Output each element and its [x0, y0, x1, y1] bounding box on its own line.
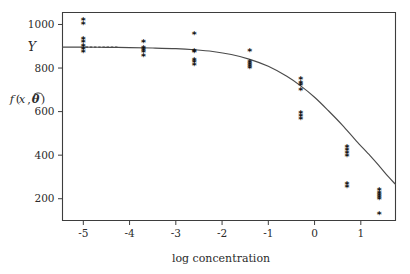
figure-root: ****************************************… — [0, 0, 410, 274]
data-point-marker: * — [344, 151, 349, 162]
y-tick-label: 1000 — [28, 18, 55, 30]
data-point-marker: * — [192, 29, 197, 40]
fit-line — [63, 47, 396, 184]
x-tick-label: -5 — [78, 227, 88, 239]
svg-text:,: , — [27, 92, 31, 106]
y-axis-title-response: Y — [28, 39, 38, 54]
x-axis-title: log concentration — [172, 252, 270, 265]
y-tick-label: 200 — [34, 192, 54, 204]
data-point-marker: * — [298, 114, 303, 125]
x-tick-label: 1 — [357, 227, 364, 239]
data-points: ****************************************… — [81, 15, 382, 219]
y-axis-title-fitted: f(x,θ) — [9, 92, 45, 106]
data-point-marker: * — [247, 63, 252, 74]
svg-text:x: x — [19, 92, 26, 106]
x-tick-label: 0 — [311, 227, 318, 239]
data-point-marker: * — [81, 47, 86, 58]
data-point-marker: * — [377, 209, 382, 220]
svg-text:): ) — [41, 92, 46, 106]
x-tick-label: -2 — [217, 227, 227, 239]
data-point-marker: * — [298, 85, 303, 96]
fitted-curve — [63, 47, 396, 184]
y-tick-label: 600 — [34, 105, 54, 117]
data-point-marker: * — [344, 182, 349, 193]
data-point-marker: * — [141, 51, 146, 62]
y-tick-label: 800 — [34, 62, 54, 74]
data-point-marker: * — [377, 194, 382, 205]
tick-marks — [58, 24, 361, 225]
y-tick-label: 400 — [34, 149, 54, 161]
data-point-marker: * — [247, 46, 252, 57]
svg-text:θ: θ — [32, 92, 40, 106]
dose-response-plot: ****************************************… — [0, 0, 410, 274]
data-point-marker: * — [192, 60, 197, 71]
data-point-marker: * — [81, 19, 86, 30]
x-tick-label: -3 — [171, 227, 181, 239]
x-tick-label: -4 — [124, 227, 135, 239]
x-tick-label: -1 — [263, 227, 273, 239]
